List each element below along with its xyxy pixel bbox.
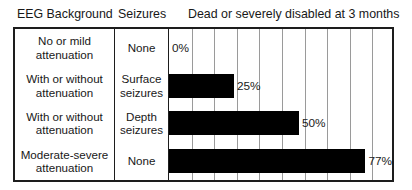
bar-2 — [169, 111, 299, 135]
seizures-text: seizures — [120, 123, 163, 137]
eeg-background-text: With or without — [26, 110, 103, 124]
header-outcome: Dead or severely disabled at 3 months — [188, 5, 399, 23]
bar-3 — [169, 149, 365, 173]
bar-value-label: 77% — [365, 154, 392, 168]
bar-row: 77% — [169, 142, 392, 180]
table-row: Surface seizures — [115, 67, 168, 105]
seizures-text: Depth — [120, 110, 163, 124]
table-row: Moderate-severe attenuation — [15, 142, 114, 180]
eeg-background-text: With or without — [26, 72, 103, 86]
bar-1 — [169, 74, 234, 98]
table-row: No or mild attenuation — [15, 29, 114, 67]
table-row: None — [115, 29, 168, 67]
header-eeg-background: EEG Background — [17, 5, 113, 23]
bar-chart-plot: 0% 25% 50% 77% — [169, 29, 392, 180]
data-table: No or mild attenuation With or without a… — [13, 27, 394, 182]
seizures-text: None — [128, 41, 156, 55]
column-seizures: None Surface seizures Depth seizures Non… — [115, 29, 168, 180]
seizures-text: seizures — [120, 86, 163, 100]
chart-bars: 0% 25% 50% 77% — [169, 29, 392, 180]
seizures-text: None — [128, 154, 156, 168]
eeg-background-text: No or mild — [36, 34, 93, 48]
bar-value-label: 25% — [234, 79, 261, 93]
table-row: With or without attenuation — [15, 67, 114, 105]
table-row: With or without attenuation — [15, 105, 114, 143]
column-eeg-background: No or mild attenuation With or without a… — [15, 29, 114, 180]
bar-value-label: 50% — [299, 116, 326, 130]
eeg-outcome-figure: EEG Background Seizures Dead or severely… — [0, 0, 412, 190]
header-seizures: Seizures — [118, 5, 166, 23]
bar-row: 0% — [169, 29, 392, 67]
column-headers: EEG Background Seizures Dead or severely… — [0, 5, 412, 25]
seizures-text: Surface — [120, 72, 163, 86]
eeg-background-text: Moderate-severe — [21, 148, 109, 162]
eeg-background-text: attenuation — [26, 86, 103, 100]
eeg-background-text: attenuation — [36, 48, 93, 62]
bar-row: 50% — [169, 105, 392, 143]
eeg-background-text: attenuation — [21, 161, 109, 175]
bar-row: 25% — [169, 67, 392, 105]
table-row: None — [115, 142, 168, 180]
table-row: Depth seizures — [115, 105, 168, 143]
eeg-background-text: attenuation — [26, 123, 103, 137]
bar-value-label: 0% — [169, 41, 189, 55]
